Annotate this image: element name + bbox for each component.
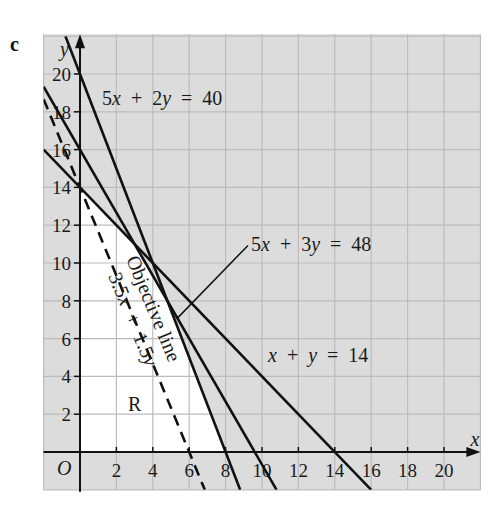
y-tick-label: 4 [62,366,72,387]
label-region-r: R [128,393,142,415]
label-5x-3y-48: 5x + 3y = 48 [251,233,371,256]
y-tick-label: 8 [62,291,72,312]
label-x-y-14: x + y = 14 [267,344,368,367]
x-tick-label: 6 [184,460,194,481]
label-5x-2y-40: 5x + 2y = 40 [102,87,222,110]
x-tick-label: 2 [112,460,122,481]
x-tick-label: 20 [435,460,454,481]
y-tick-label: 6 [62,329,72,350]
x-tick-label: 16 [362,460,381,481]
x-tick-label: 18 [398,460,417,481]
x-tick-label: 4 [148,460,158,481]
linear-programming-graph: 24681012141618202468101214161820xyO 5x +… [0,0,503,518]
y-tick-label: 10 [52,253,71,274]
y-tick-label: 20 [52,64,71,85]
x-tick-label: 12 [289,460,308,481]
x-axis-label: x [469,428,479,450]
origin-label: O [57,457,71,479]
y-tick-label: 2 [62,404,72,425]
x-tick-label: 14 [325,460,345,481]
y-tick-label: 14 [52,177,72,198]
y-tick-label: 12 [52,215,71,236]
